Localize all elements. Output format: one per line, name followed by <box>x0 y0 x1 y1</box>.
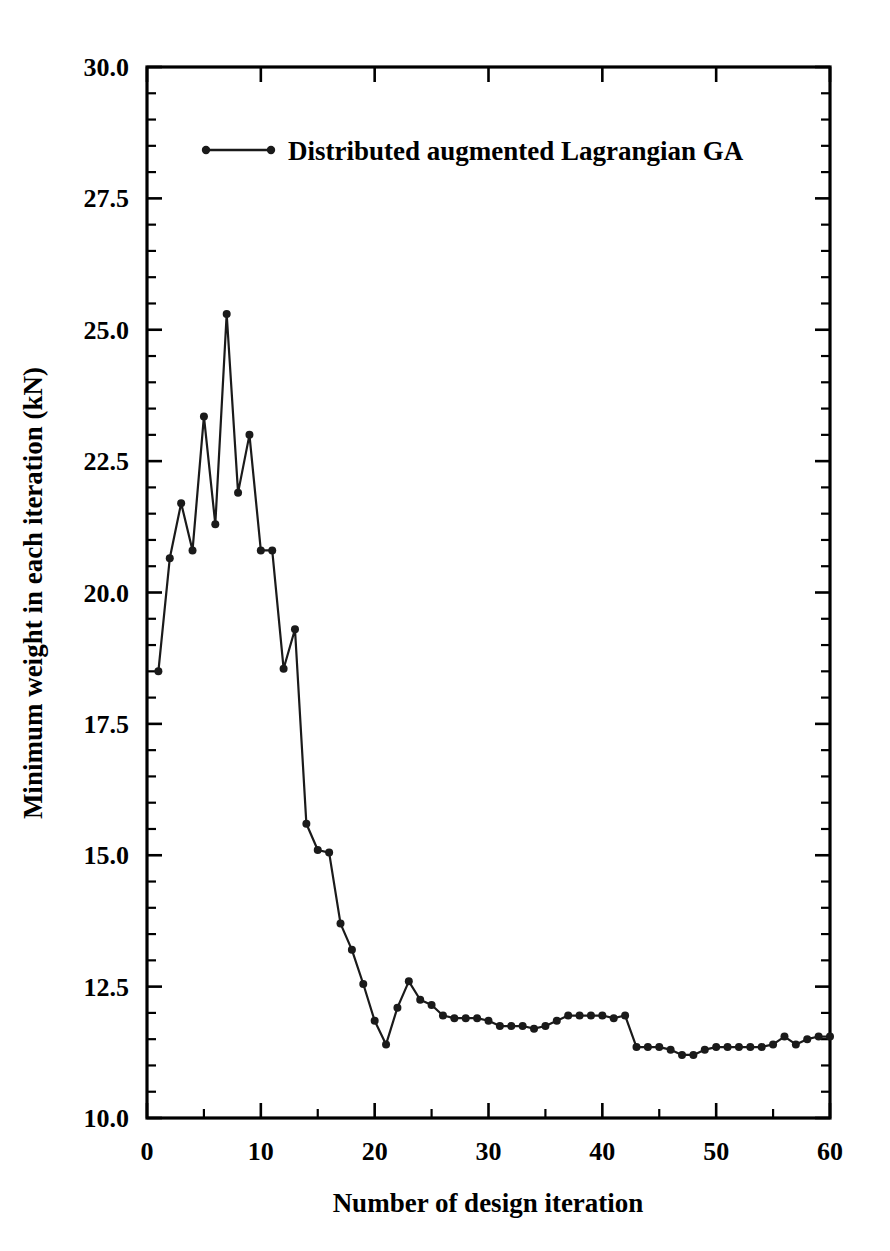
data-point <box>815 1033 823 1041</box>
data-point <box>302 820 310 828</box>
data-point <box>724 1043 732 1051</box>
figure-container: 10.012.515.017.520.022.525.027.530.0 010… <box>0 0 890 1251</box>
x-tick-label: 10 <box>248 1137 274 1166</box>
data-point <box>689 1051 697 1059</box>
data-point <box>485 1017 493 1025</box>
data-point <box>553 1017 561 1025</box>
data-point <box>610 1014 618 1022</box>
data-point <box>632 1043 640 1051</box>
data-point <box>746 1043 754 1051</box>
data-point <box>826 1033 834 1041</box>
data-point <box>780 1033 788 1041</box>
data-point <box>428 1001 436 1009</box>
y-tick-label: 20.0 <box>84 579 130 608</box>
data-point <box>735 1043 743 1051</box>
data-point <box>655 1043 663 1051</box>
data-point <box>667 1046 675 1054</box>
data-point <box>473 1014 481 1022</box>
data-point <box>541 1022 549 1030</box>
x-tick-label: 60 <box>817 1137 843 1166</box>
x-axis-ticks <box>147 67 830 1118</box>
data-point <box>337 920 345 928</box>
y-tick-label: 10.0 <box>84 1104 130 1133</box>
data-point <box>314 846 322 854</box>
data-point <box>621 1012 629 1020</box>
data-point <box>462 1014 470 1022</box>
data-point <box>325 849 333 857</box>
data-point <box>291 625 299 633</box>
data-point <box>678 1051 686 1059</box>
data-point <box>268 546 276 554</box>
data-point <box>644 1043 652 1051</box>
line-chart: 10.012.515.017.520.022.525.027.530.0 010… <box>0 0 890 1251</box>
y-tick-label: 27.5 <box>84 184 130 213</box>
y-tick-label: 25.0 <box>84 316 130 345</box>
series-line-distributed-augmented-lagrangian-ga <box>158 314 830 1055</box>
data-point <box>348 946 356 954</box>
y-tick-label: 17.5 <box>84 710 130 739</box>
data-point <box>769 1040 777 1048</box>
y-axis-title: Minimum weight in each iteration (kN) <box>18 367 48 819</box>
y-tick-label: 30.0 <box>84 53 130 82</box>
x-axis-tick-labels: 0102030405060 <box>141 1137 844 1166</box>
data-point <box>564 1012 572 1020</box>
data-point <box>416 996 424 1004</box>
legend-marker-start <box>202 146 210 154</box>
data-point <box>405 977 413 985</box>
data-point <box>177 499 185 507</box>
x-axis-title: Number of design iteration <box>333 1188 644 1218</box>
x-tick-label: 50 <box>703 1137 729 1166</box>
x-tick-label: 30 <box>476 1137 502 1166</box>
y-tick-label: 12.5 <box>84 973 130 1002</box>
plot-frame <box>147 67 830 1118</box>
data-point <box>519 1022 527 1030</box>
data-point <box>530 1025 538 1033</box>
data-point <box>257 546 265 554</box>
legend-marker-end <box>267 146 275 154</box>
data-point <box>371 1017 379 1025</box>
y-tick-label: 15.0 <box>84 841 130 870</box>
x-tick-label: 20 <box>362 1137 388 1166</box>
data-point <box>200 412 208 420</box>
data-point <box>758 1043 766 1051</box>
data-series-group <box>154 310 834 1059</box>
y-tick-label: 22.5 <box>84 447 130 476</box>
data-point <box>223 310 231 318</box>
data-point <box>166 554 174 562</box>
data-point <box>587 1012 595 1020</box>
data-point <box>598 1012 606 1020</box>
data-point <box>576 1012 584 1020</box>
x-tick-label: 0 <box>141 1137 154 1166</box>
data-point <box>382 1040 390 1048</box>
data-point <box>280 665 288 673</box>
data-point <box>803 1035 811 1043</box>
legend: Distributed augmented Lagrangian GA <box>202 136 744 166</box>
data-point <box>393 1004 401 1012</box>
data-point <box>496 1022 504 1030</box>
data-point <box>507 1022 515 1030</box>
legend-label-0: Distributed augmented Lagrangian GA <box>288 136 744 166</box>
data-point <box>359 980 367 988</box>
data-point <box>450 1014 458 1022</box>
data-point <box>211 520 219 528</box>
data-point <box>189 546 197 554</box>
y-axis-ticks <box>147 67 830 1118</box>
series-markers-distributed-augmented-lagrangian-ga <box>154 310 834 1059</box>
data-point <box>701 1046 709 1054</box>
x-tick-label: 40 <box>589 1137 615 1166</box>
data-point <box>154 667 162 675</box>
data-point <box>792 1040 800 1048</box>
data-point <box>234 489 242 497</box>
data-point <box>712 1043 720 1051</box>
data-point <box>439 1012 447 1020</box>
data-point <box>245 431 253 439</box>
y-axis-tick-labels: 10.012.515.017.520.022.525.027.530.0 <box>84 53 130 1133</box>
